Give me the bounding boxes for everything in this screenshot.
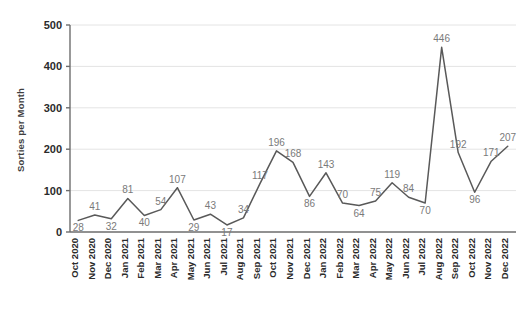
data-label: 29 bbox=[188, 222, 200, 233]
data-label: 446 bbox=[433, 33, 450, 44]
data-point-labels: 2841328140541072943173411719616886143706… bbox=[73, 33, 517, 238]
data-label: 40 bbox=[139, 217, 151, 228]
x-axis-tick: Aug 2022 bbox=[433, 238, 444, 280]
chart-container: 0100200300400500 Sorties per Month 28413… bbox=[0, 0, 526, 311]
x-axis-tick: Oct 2020 bbox=[69, 238, 80, 278]
x-axis-tick: Apr 2022 bbox=[367, 238, 378, 278]
data-label: 143 bbox=[318, 159, 335, 170]
data-label: 34 bbox=[238, 204, 250, 215]
y-axis-tick: 400 bbox=[44, 60, 62, 72]
data-label: 75 bbox=[370, 187, 382, 198]
data-label: 86 bbox=[304, 198, 316, 209]
x-axis-tick: Jul 2021 bbox=[218, 237, 229, 275]
y-axis-tick: 0 bbox=[56, 226, 62, 238]
data-label: 41 bbox=[89, 201, 101, 212]
gridlines bbox=[70, 25, 516, 191]
x-axis-tick: Mar 2021 bbox=[152, 237, 163, 278]
x-axis-tick: Apr 2021 bbox=[168, 237, 179, 278]
x-axis-tick: Dec 2021 bbox=[301, 237, 312, 279]
x-axis-tick: Jul 2022 bbox=[416, 238, 427, 276]
data-label: 207 bbox=[499, 132, 516, 143]
data-label: 32 bbox=[106, 221, 118, 232]
line-chart: 0100200300400500 Sorties per Month 28413… bbox=[0, 0, 526, 311]
data-label: 70 bbox=[420, 205, 432, 216]
x-axis-tick: Jun 2022 bbox=[400, 238, 411, 279]
x-axis-tick: Nov 2022 bbox=[482, 238, 493, 280]
y-axis-tick: 500 bbox=[44, 19, 62, 31]
x-axis-tick: Sep 2022 bbox=[449, 238, 460, 279]
data-label: 84 bbox=[403, 183, 415, 194]
data-label: 168 bbox=[285, 148, 302, 159]
y-axis-tick: 300 bbox=[44, 102, 62, 114]
x-axis-tick: Nov 2021 bbox=[284, 237, 295, 279]
axis-lines bbox=[70, 25, 516, 232]
data-label: 119 bbox=[384, 169, 400, 180]
x-axis-tick: Nov 2020 bbox=[86, 238, 97, 280]
y-axis-tick-labels: 0100200300400500 bbox=[44, 19, 70, 238]
x-axis-tick: Oct 2021 bbox=[267, 237, 278, 277]
data-label: 107 bbox=[169, 174, 186, 185]
x-axis-tick: Aug 2021 bbox=[234, 237, 245, 280]
data-label: 17 bbox=[221, 227, 233, 238]
x-axis-tick: Oct 2022 bbox=[466, 238, 477, 278]
y-axis-tick: 200 bbox=[44, 143, 62, 155]
x-axis-tick: Feb 2021 bbox=[135, 237, 146, 278]
x-axis-tick: Jan 2022 bbox=[317, 238, 328, 278]
y-axis-tick: 100 bbox=[44, 185, 62, 197]
x-axis-tick: Dec 2020 bbox=[102, 238, 113, 279]
x-axis-tick: Sep 2021 bbox=[251, 237, 262, 279]
data-label: 196 bbox=[268, 137, 285, 148]
data-label: 171 bbox=[483, 147, 500, 158]
data-label: 96 bbox=[469, 194, 481, 205]
x-axis-tick: May 2022 bbox=[383, 238, 394, 280]
data-label: 54 bbox=[155, 196, 167, 207]
x-axis-tick: Mar 2022 bbox=[350, 238, 361, 279]
x-axis-tick-labels: Oct 2020Nov 2020Dec 2020Jan 2021Feb 2021… bbox=[69, 237, 509, 280]
x-axis-tick: Jan 2021 bbox=[119, 237, 130, 278]
data-label: 43 bbox=[205, 200, 217, 211]
data-label: 28 bbox=[73, 222, 85, 233]
sorties-series-line bbox=[78, 47, 507, 225]
x-axis-tick: May 2021 bbox=[185, 237, 196, 280]
data-label: 81 bbox=[122, 184, 134, 195]
data-label: 70 bbox=[337, 189, 349, 200]
data-label: 64 bbox=[354, 208, 366, 219]
data-label: 192 bbox=[450, 139, 467, 150]
x-axis-tick: Feb 2022 bbox=[334, 238, 345, 279]
x-axis-tick: Dec 2022 bbox=[499, 238, 510, 279]
x-axis-tick: Jun 2021 bbox=[201, 237, 212, 278]
data-label: 117 bbox=[252, 170, 268, 181]
y-axis-title: Sorties per Month bbox=[15, 88, 26, 172]
